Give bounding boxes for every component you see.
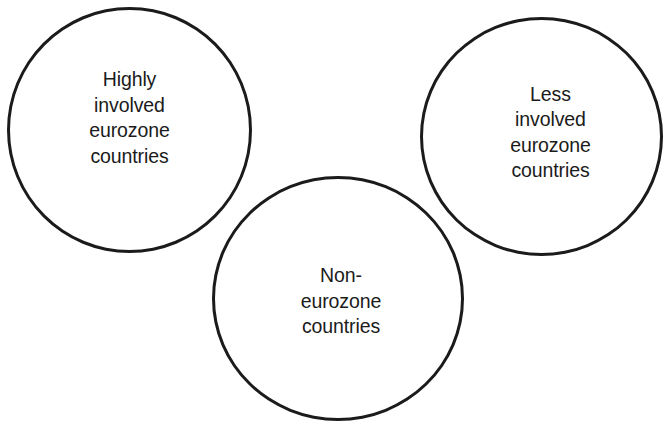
circles-diagram: Highly involved eurozone countries Less … [0,0,667,428]
circle-label-non-eurozone: Non- eurozone countries [295,263,388,340]
circle-label-highly-involved: Highly involved eurozone countries [83,67,176,169]
circle-highly-involved-eurozone-countries: Highly involved eurozone countries [7,7,252,253]
circle-less-involved-eurozone-countries: Less involved eurozone countries [420,17,663,256]
circle-label-less-involved: Less involved eurozone countries [504,82,597,184]
circle-non-eurozone-countries: Non- eurozone countries [212,176,464,421]
